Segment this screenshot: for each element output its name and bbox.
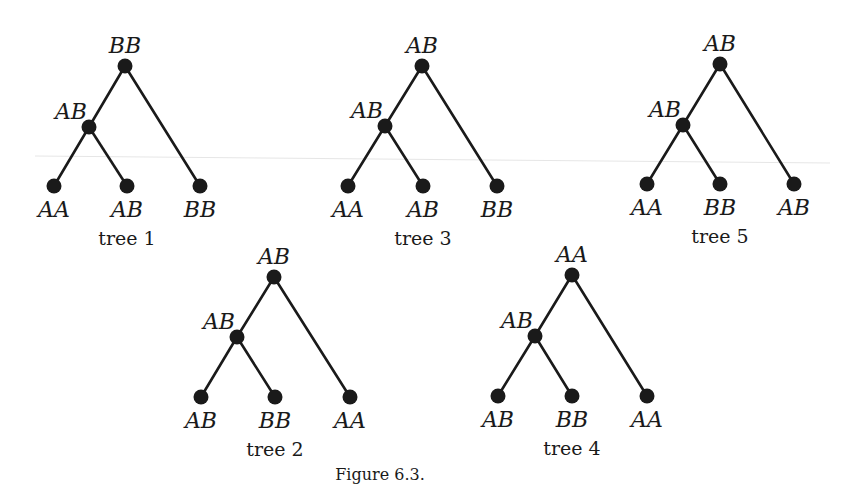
figure-caption: Figure 6.3. xyxy=(335,465,425,484)
leaf-label: BB xyxy=(555,407,588,432)
edge-internal-leaf xyxy=(683,125,720,184)
leaf-node xyxy=(268,390,283,405)
edge-internal-leaf xyxy=(348,126,385,186)
tree-4: ABABABBBAAtree 2 xyxy=(183,244,366,460)
root-node xyxy=(118,59,133,74)
edge-root-leaf xyxy=(720,64,794,184)
leaf-node xyxy=(640,177,655,192)
root-label: AB xyxy=(256,244,290,269)
edge-root-internal xyxy=(89,66,125,127)
edge-internal-leaf xyxy=(385,126,423,186)
edge-root-internal xyxy=(385,66,422,126)
tree-3: ABABAABBABtree 5 xyxy=(629,31,810,247)
leaf-label: BB xyxy=(258,408,291,433)
leaf-label: BB xyxy=(480,197,513,222)
tree-caption: tree 5 xyxy=(691,225,748,247)
edge-root-internal xyxy=(535,275,572,336)
leaf-node xyxy=(193,179,208,194)
leaf-node xyxy=(640,389,655,404)
internal-label: AB xyxy=(647,97,681,122)
edge-root-leaf xyxy=(274,277,350,397)
leaf-label: AB xyxy=(109,197,143,222)
root-label: AB xyxy=(702,31,736,56)
leaf-node xyxy=(194,390,209,405)
leaf-node xyxy=(47,179,62,194)
edge-internal-leaf xyxy=(201,337,237,397)
root-node xyxy=(267,270,282,285)
edge-internal-leaf xyxy=(498,336,535,396)
tree-5: AAABABBBAAtree 4 xyxy=(480,242,663,459)
root-label: AA xyxy=(554,242,588,267)
edge-internal-leaf xyxy=(237,337,275,397)
leaf-node xyxy=(343,390,358,405)
scan-artifact-line xyxy=(35,156,830,163)
leaf-node xyxy=(713,177,728,192)
leaf-node xyxy=(120,179,135,194)
tree-caption: tree 4 xyxy=(543,437,600,459)
figure-canvas: BBABAAABBBtree 1ABABAAABBBtree 3ABABAABB… xyxy=(0,0,850,503)
root-node xyxy=(415,59,430,74)
internal-label: AB xyxy=(201,309,235,334)
leaf-node xyxy=(491,389,506,404)
leaf-label: AA xyxy=(36,197,70,222)
leaf-node xyxy=(787,177,802,192)
edge-root-internal xyxy=(683,64,720,125)
leaf-node xyxy=(341,179,356,194)
leaf-node xyxy=(416,179,431,194)
root-node xyxy=(713,57,728,72)
edge-internal-leaf xyxy=(647,125,683,184)
internal-label: AB xyxy=(499,308,533,333)
leaf-node xyxy=(565,389,580,404)
leaf-node xyxy=(490,179,505,194)
edge-root-leaf xyxy=(125,66,200,186)
leaf-label: AB xyxy=(480,407,514,432)
leaf-label: AB xyxy=(405,197,439,222)
root-label: AB xyxy=(404,33,438,58)
leaf-label: AB xyxy=(776,195,810,220)
tree-caption: tree 1 xyxy=(98,227,155,249)
root-node xyxy=(565,268,580,283)
tree-caption: tree 3 xyxy=(394,227,451,249)
edge-internal-leaf xyxy=(535,336,572,396)
internal-label: AB xyxy=(349,98,383,123)
trees-group: BBABAAABBBtree 1ABABAAABBBtree 3ABABAABB… xyxy=(36,31,810,460)
edge-root-leaf xyxy=(572,275,647,396)
internal-label: AB xyxy=(53,99,87,124)
leaf-label: AA xyxy=(330,197,364,222)
edge-root-leaf xyxy=(422,66,497,186)
tree-1: BBABAAABBBtree 1 xyxy=(36,33,216,249)
leaf-label: AA xyxy=(629,407,663,432)
leaf-label: BB xyxy=(703,195,736,220)
edge-root-internal xyxy=(237,277,274,337)
leaf-label: AA xyxy=(332,408,366,433)
leaf-label: AB xyxy=(183,408,217,433)
root-label: BB xyxy=(108,33,141,58)
tree-2: ABABAAABBBtree 3 xyxy=(330,33,513,249)
leaf-label: AA xyxy=(629,195,663,220)
tree-caption: tree 2 xyxy=(246,438,303,460)
leaf-label: BB xyxy=(183,197,216,222)
